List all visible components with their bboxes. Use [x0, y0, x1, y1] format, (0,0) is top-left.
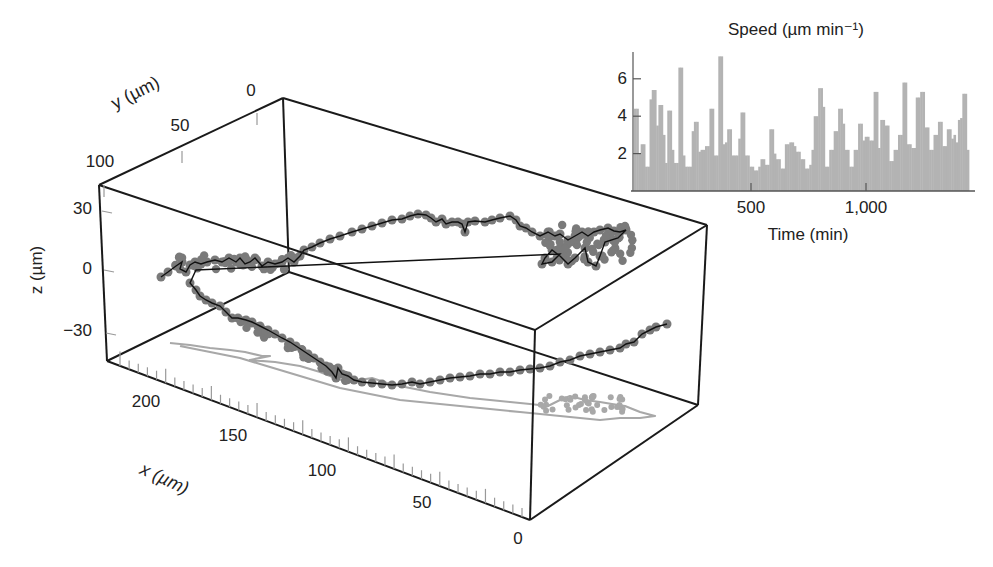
y-tick-100: 100 [86, 152, 114, 171]
trajectory-point [621, 222, 629, 230]
x-tick-0: 0 [513, 529, 522, 548]
y-tick-50: 50 [171, 116, 190, 135]
x-tick-50: 50 [413, 493, 432, 512]
x-axis-labels: 200 150 100 50 0 [132, 392, 523, 548]
trajectory-point [242, 324, 250, 332]
speed-x-axis-title: Time (min) [768, 225, 849, 244]
speed-x-tick-1000: 1,000 [845, 198, 888, 217]
speed-chart-title: Speed (µm min⁻¹) [728, 20, 864, 39]
x-tick-200: 200 [132, 392, 160, 411]
x-tick-150: 150 [219, 426, 247, 445]
trajectory-point [558, 221, 566, 229]
speed-bar [967, 150, 970, 191]
trajectory-point [193, 264, 201, 272]
trajectory-point [545, 241, 553, 249]
z-axis-title: z (µm) [27, 246, 46, 295]
y-axis-title: y (µm) [108, 72, 163, 113]
trajectory-point [616, 250, 624, 258]
trajectory-point [589, 248, 597, 256]
speed-y-tick-4: 4 [618, 106, 627, 125]
z-tick-minus30: −30 [63, 321, 92, 340]
speed-y-tick-2: 2 [618, 144, 627, 163]
trajectory-point [626, 249, 634, 257]
speed-bars [634, 56, 969, 191]
y-tick-0: 0 [246, 81, 255, 100]
speed-chart: Speed (µm min⁻¹) 2 4 6 500 1,000 Time (m… [618, 20, 975, 244]
speed-x-labels: 500 1,000 [737, 198, 887, 217]
z-tick-30: 30 [73, 199, 92, 218]
figure-canvas: 0 50 100 y (µm) 30 0 −30 z (µm) 200 150 … [0, 0, 993, 567]
trajectory-point [561, 244, 569, 252]
speed-y-labels: 2 4 6 [618, 69, 627, 163]
speed-y-tick-6: 6 [618, 69, 627, 88]
z-axis-labels: 30 0 −30 [63, 199, 92, 340]
z-tick-0: 0 [83, 259, 92, 278]
trajectory-point [323, 367, 331, 375]
speed-x-tick-500: 500 [737, 198, 765, 217]
trajectory-point [175, 252, 183, 260]
trajectory-point [602, 232, 610, 240]
x-tick-100: 100 [308, 461, 336, 480]
trajectory-point [607, 248, 615, 256]
x-axis-title: x (µm) [136, 458, 192, 498]
figure: 0 50 100 y (µm) 30 0 −30 z (µm) 200 150 … [0, 0, 993, 567]
trajectory-point [241, 252, 249, 260]
